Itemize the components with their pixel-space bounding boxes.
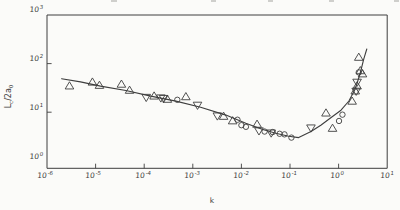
marker-triangle-up: [354, 53, 363, 60]
marker-triangle-up: [65, 82, 74, 89]
x-tick-label: 10-2: [226, 171, 255, 181]
x-tick-label: 10-1: [274, 171, 303, 181]
marker-circle: [340, 112, 345, 117]
marker-triangle-up: [322, 109, 331, 116]
log-log-chart-figure: 103 102 101 100 10-6 10-5 10-4 10-3 10-2…: [0, 0, 400, 210]
y-axis-label: Lc/2a0: [4, 75, 13, 119]
x-tick-label: 10-3: [177, 171, 206, 181]
y-tick-label: 101: [18, 103, 43, 113]
x-tick-label: 10-5: [78, 171, 107, 181]
plot-frame: [47, 15, 387, 168]
x-tick-label: 100: [322, 171, 351, 181]
marker-triangle-up: [117, 80, 126, 87]
x-axis-label: k: [202, 196, 222, 205]
x-tick-label: 10-4: [128, 171, 157, 181]
marker-triangle-up: [182, 93, 191, 100]
y-tick-label: 100: [18, 152, 43, 162]
marker-triangle-up: [328, 124, 337, 131]
fit-curve: [62, 49, 367, 138]
x-tick-label: 101: [372, 171, 400, 181]
x-tick-label: 10-6: [30, 171, 59, 181]
marker-circle: [336, 118, 341, 123]
marker-circle: [289, 135, 294, 140]
y-tick-label: 103: [18, 5, 43, 15]
y-tick-label: 102: [18, 54, 43, 64]
